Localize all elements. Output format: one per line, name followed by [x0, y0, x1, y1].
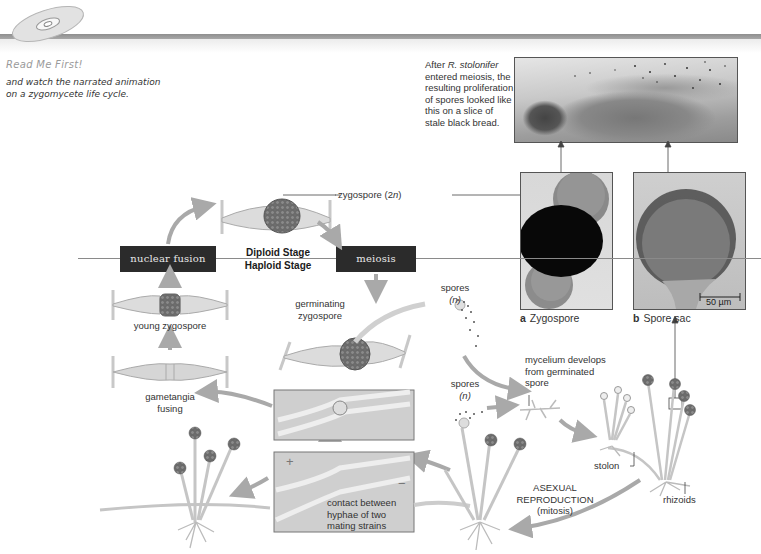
label-text: zygospore (2	[338, 189, 393, 200]
label-line: fusing	[130, 403, 210, 415]
mating-strain-sporangia	[100, 438, 270, 522]
label-line: (n)	[430, 294, 480, 306]
asexual-reproduction-label: ASEXUAL REPRODUCTION (mitosis)	[510, 482, 600, 517]
stolon-label: stolon	[594, 460, 619, 472]
label-line: germinating	[280, 298, 360, 310]
label-line: mating strains	[327, 520, 396, 532]
zygospore-mature	[222, 199, 330, 234]
label-line: (mitosis)	[510, 505, 600, 517]
young-zygospore-illustration	[113, 290, 227, 320]
label-line: contact between	[327, 497, 396, 509]
label-line: (n)	[440, 390, 490, 402]
zygospore-2n-label: zygospore (2n)	[338, 189, 401, 201]
germinating-zygospore-label: germinating zygospore	[280, 298, 360, 321]
gametangia-fusing-label: gametangia fusing	[130, 391, 210, 414]
minus-strain-sign: −	[398, 476, 406, 491]
contact-hyphae-label: contact between hyphae of two mating str…	[327, 497, 396, 532]
gametangia-fusing-illustration	[113, 356, 227, 388]
spores-top-label: spores (n)	[430, 282, 480, 305]
spores-mid-label: spores (n)	[440, 378, 490, 401]
label-line: from germinated	[525, 366, 606, 378]
young-zygospore-label: young zygospore	[110, 320, 230, 332]
label-line: mycelium develops	[525, 354, 606, 366]
label-line: spores	[440, 378, 490, 390]
rhizoids-label: rhizoids	[663, 494, 696, 506]
plus-strain-sign: +	[286, 454, 294, 469]
life-cycle-illustration	[0, 0, 761, 554]
mycelium-develops-label: mycelium develops from germinated spore	[525, 354, 606, 389]
label-line: zygospore	[280, 310, 360, 322]
label-line: spore	[525, 377, 606, 389]
label-line: REPRODUCTION	[510, 494, 600, 506]
label-text: )	[398, 189, 401, 200]
young-mycelium	[520, 395, 560, 420]
label-line: hyphae of two	[327, 509, 396, 521]
label-line: ASEXUAL	[510, 482, 600, 494]
label-line: gametangia	[130, 391, 210, 403]
label-line: spores	[430, 282, 480, 294]
